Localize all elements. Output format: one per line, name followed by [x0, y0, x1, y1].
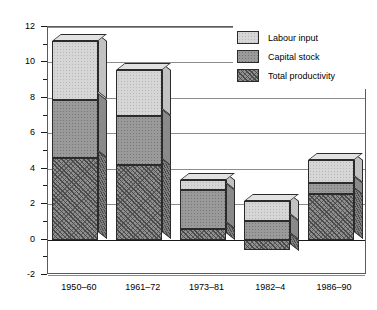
chart-legend: Labour inputCapital stockTotal productiv…: [233, 24, 366, 89]
legend-label: Total productivity: [268, 71, 335, 81]
bar-segment-capital: [308, 183, 354, 195]
bar-top-face: [308, 153, 363, 160]
y-tick-label: 8: [9, 93, 35, 102]
legend-label: Capital stock: [268, 52, 320, 62]
bar-segment-labour: [308, 160, 354, 183]
x-tick-label: 1986–90: [294, 282, 374, 292]
legend-swatch-capital-icon: [237, 50, 259, 63]
gridline: [48, 275, 365, 276]
y-tick-label: -2: [9, 270, 35, 279]
legend-swatch-labour-icon: [237, 31, 259, 44]
legend-swatch-total-icon: [237, 69, 259, 82]
legend-label: Labour input: [268, 33, 318, 43]
legend-item-total: Total productivity: [237, 66, 363, 85]
y-tick-label: 4: [9, 164, 35, 173]
y-tick-label: 10: [9, 57, 35, 66]
bar-segment-side-total: [354, 187, 363, 239]
y-tick-major: [41, 274, 47, 275]
y-tick-label: 6: [9, 128, 35, 137]
y-tick-label: 0: [9, 235, 35, 244]
chart-root: Annual rate of change (%) 121086420-2 19…: [0, 0, 377, 310]
y-tick-label: 2: [9, 199, 35, 208]
legend-item-labour: Labour input: [237, 28, 363, 47]
bar-segment-total: [308, 194, 354, 239]
legend-item-capital: Capital stock: [237, 47, 363, 66]
y-tick-label: 12: [9, 22, 35, 31]
